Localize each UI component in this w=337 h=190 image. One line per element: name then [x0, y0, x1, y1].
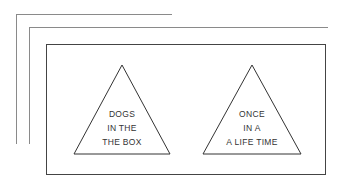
- triangle-right-line-3: A LIFE TIME: [212, 135, 292, 149]
- triangle-left-line-3: THE BOX: [82, 135, 162, 149]
- triangle-right-text: ONCE IN A A LIFE TIME: [212, 107, 292, 149]
- triangles-layer: [0, 0, 337, 190]
- triangle-left-line-2: IN THE: [82, 121, 162, 135]
- triangle-right-line-2: IN A: [212, 121, 292, 135]
- triangle-left-line-1: DOGS: [82, 107, 162, 121]
- triangle-right-line-1: ONCE: [212, 107, 292, 121]
- triangle-left-text: DOGS IN THE THE BOX: [82, 107, 162, 149]
